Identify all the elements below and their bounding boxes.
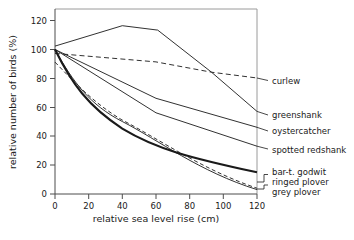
leader-oystercatcher (257, 127, 268, 131)
chart-figure: 0 20 40 60 80 100 120 0 20 40 60 80 100 … (0, 0, 354, 240)
leader-ringed-plover (257, 175, 268, 183)
y-axis-ticks (50, 21, 55, 195)
series-label-grey-plover: grey plover (272, 187, 321, 197)
series-curlew-line (55, 53, 257, 78)
series-grey-plover-line (55, 62, 257, 188)
series-label-oystercatcher: oystercatcher (272, 126, 331, 136)
x-tick-label-40: 40 (117, 201, 128, 211)
leader-spotted-redshank (257, 146, 268, 149)
y-tick-label-20: 20 (36, 160, 47, 170)
series-label-bar-t-godwit: bar-t. godwit (272, 167, 327, 177)
leader-grey-plover (257, 185, 268, 189)
series-label-curlew: curlew (272, 76, 300, 86)
x-tick-label-80: 80 (184, 201, 195, 211)
x-axis-ticks (55, 194, 257, 199)
y-tick-label-40: 40 (36, 131, 47, 141)
x-axis-title: relative sea level rise (cm) (93, 213, 219, 224)
series-oystercatcher-line (55, 50, 257, 128)
y-tick-label-80: 80 (36, 74, 47, 84)
x-tick-label-100: 100 (215, 201, 231, 211)
x-tick-label-20: 20 (83, 201, 94, 211)
series-label-ringed-plover: ringed plover (272, 177, 329, 187)
series-bar-t-godwit-line (55, 50, 257, 173)
y-tick-label-60: 60 (36, 103, 47, 113)
y-tick-label-0: 0 (42, 189, 47, 199)
y-tick-label-120: 120 (31, 16, 47, 26)
x-tick-label-0: 0 (52, 201, 57, 211)
leader-greenshank (257, 111, 268, 115)
x-tick-label-60: 60 (151, 201, 162, 211)
y-axis-title: relative number of birds (%) (7, 35, 18, 169)
x-tick-label-120: 120 (249, 201, 265, 211)
leader-curlew (257, 78, 268, 81)
series-label-spotted-redshank: spotted redshank (272, 145, 346, 155)
series-label-greenshank: greenshank (272, 110, 322, 120)
series-ringed-plover-line (55, 50, 257, 190)
y-tick-label-100: 100 (31, 45, 47, 55)
bird-population-line-chart: 0 20 40 60 80 100 120 0 20 40 60 80 100 … (0, 0, 354, 240)
